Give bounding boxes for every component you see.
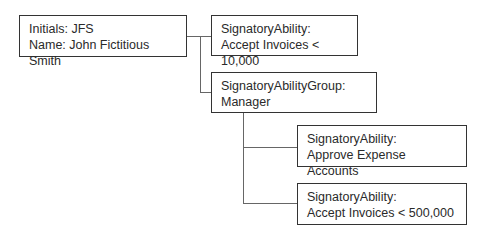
node-type: SignatoryAbilityGroup: xyxy=(221,78,367,94)
node-type: SignatoryAbility: xyxy=(221,21,348,37)
node-value: Accept Invoices < 10,000 xyxy=(221,37,348,69)
person-name: Name: John Fictitious Smith xyxy=(29,37,177,69)
connector-to-ability2 xyxy=(243,147,297,148)
node-type: SignatoryAbility: xyxy=(307,189,457,205)
signatory-ability-group-node: SignatoryAbilityGroup: Manager xyxy=(211,72,377,113)
person-node: Initials: JFS Name: John Fictitious Smit… xyxy=(19,15,187,57)
signatory-ability-node-2: SignatoryAbility: Approve Expense Accoun… xyxy=(297,125,467,167)
connector-group-trunk xyxy=(243,113,244,204)
connector-to-ability3 xyxy=(243,203,297,204)
signatory-ability-node-3: SignatoryAbility: Accept Invoices < 500,… xyxy=(297,183,467,225)
connector-to-group xyxy=(200,92,211,93)
person-initials: Initials: JFS xyxy=(29,21,177,37)
connector-person-out xyxy=(187,36,200,37)
node-value: Manager xyxy=(221,94,367,110)
connector-to-ability1 xyxy=(200,36,211,37)
node-value: Accept Invoices < 500,000 xyxy=(307,205,457,221)
node-value: Approve Expense Accounts xyxy=(307,147,457,179)
signatory-ability-node-1: SignatoryAbility: Accept Invoices < 10,0… xyxy=(211,15,358,56)
node-type: SignatoryAbility: xyxy=(307,131,457,147)
connector-person-trunk xyxy=(200,36,201,93)
